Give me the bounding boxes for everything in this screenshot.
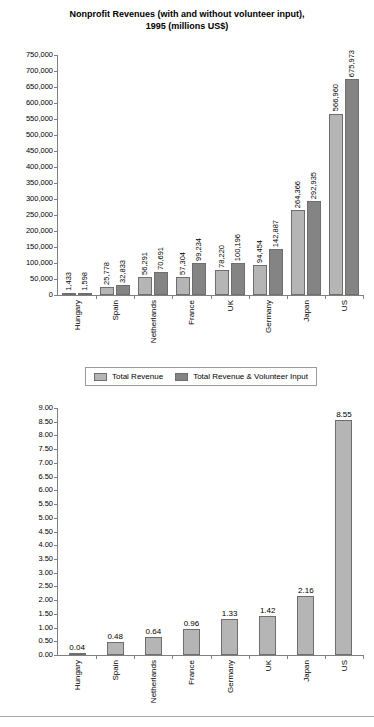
legend-item-label: Total Revenue — [112, 372, 163, 381]
bar: 1,433 — [62, 293, 76, 295]
bar-value-label: 99,234 — [195, 238, 203, 261]
bar: 1.42 — [259, 616, 276, 655]
bar: 57,304 — [176, 277, 190, 295]
x-axis-tick-mark — [211, 295, 212, 299]
legend-item[interactable]: Total Revenue — [94, 372, 163, 381]
bar-group: 0.04 — [58, 408, 96, 655]
bar-group: 1.33 — [211, 408, 249, 655]
bar: 99,234 — [192, 263, 206, 295]
x-axis-category-label: Netherlands — [149, 660, 158, 703]
x-axis-tick-mark — [211, 655, 212, 659]
bar-group: 8.55 — [325, 408, 363, 655]
x-axis-tick-mark — [172, 655, 173, 659]
bar-value-label: 0.04 — [69, 643, 85, 652]
legend-item-label: Total Revenue & Volunteer Input — [193, 372, 308, 381]
bar-value-label: 25,778 — [103, 262, 111, 285]
x-axis-tick-mark — [134, 655, 135, 659]
bar-value-label: 94,454 — [256, 240, 264, 263]
x-axis-category-label: UK — [263, 660, 272, 671]
x-axis-tick-mark — [363, 655, 364, 659]
x-axis-category-label: US — [339, 300, 348, 311]
x-axis-category-label: UK — [225, 300, 234, 311]
bottom-chart-plot-area: 9.008.508.007.507.006.506.005.505.004.50… — [57, 408, 363, 656]
bar-value-label: 70,691 — [157, 247, 165, 270]
bar-value-label: 264,366 — [294, 181, 302, 208]
bar-group: 1.42 — [249, 408, 287, 655]
x-axis-category-label: Germany — [225, 660, 234, 693]
x-axis-tick-mark — [287, 655, 288, 659]
bar-value-label: 32,833 — [119, 260, 127, 283]
bar-group: 1,4331,598 — [58, 55, 96, 295]
x-axis-tick-mark — [249, 655, 250, 659]
bar-value-label: 1.33 — [222, 609, 238, 618]
bar: 32,833 — [116, 285, 130, 296]
bar: 292,935 — [307, 201, 321, 295]
top-chart-plot-area: 750,000700,000650,000600,000550,000500,0… — [57, 55, 363, 296]
bar: 0.96 — [183, 629, 200, 655]
bar: 675,973 — [345, 79, 359, 295]
bar-value-label: 1,433 — [65, 272, 73, 291]
page-title: Nonprofit Revenues (with and without vol… — [0, 8, 374, 32]
bar-group: 57,30499,234 — [172, 55, 210, 295]
chart-title-line-2: 1995 (millions US$) — [0, 20, 374, 32]
bar-value-label: 57,304 — [179, 252, 187, 275]
bar-group: 566,960675,973 — [325, 55, 363, 295]
bar-group: 2.16 — [287, 408, 325, 655]
bar-value-label: 2.16 — [298, 586, 314, 595]
bar: 1,598 — [78, 293, 92, 295]
bar-value-label: 292,935 — [310, 172, 318, 199]
x-axis-category-label: Netherlands — [149, 300, 158, 343]
x-axis-category-label: Hungary — [73, 300, 82, 330]
y-axis-tick-mark — [54, 655, 58, 656]
bar: 142,887 — [269, 249, 283, 295]
bar-value-label: 142,887 — [272, 220, 280, 247]
bar: 566,960 — [329, 114, 343, 295]
x-axis-tick-mark — [96, 295, 97, 299]
bar-group: 264,366292,935 — [287, 55, 325, 295]
x-axis-tick-mark — [134, 295, 135, 299]
bar-value-label: 56,291 — [141, 252, 149, 275]
x-axis-tick-mark — [325, 295, 326, 299]
bar: 25,778 — [100, 287, 114, 295]
bar: 56,291 — [138, 277, 152, 295]
legend-item[interactable]: Total Revenue & Volunteer Input — [175, 372, 308, 381]
bar: 94,454 — [253, 265, 267, 295]
x-axis-category-label: Germany — [263, 300, 272, 333]
bar: 1.33 — [221, 619, 238, 656]
bar-group: 56,29170,691 — [134, 55, 172, 295]
bar-group: 0.48 — [96, 408, 134, 655]
bar-value-label: 0.48 — [107, 632, 123, 641]
x-axis-tick-mark — [325, 655, 326, 659]
bar-value-label: 100,196 — [234, 234, 242, 261]
legend-swatch-icon — [94, 373, 107, 381]
bar: 0.64 — [145, 637, 162, 655]
bar: 0.04 — [69, 653, 86, 655]
x-axis-category-label: Spain — [111, 660, 120, 680]
x-axis-tick-mark — [363, 295, 364, 299]
bar-value-label: 0.64 — [146, 627, 162, 636]
x-axis-tick-mark — [172, 295, 173, 299]
bar-value-label: 675,973 — [348, 50, 356, 77]
bar-group: 0.96 — [172, 408, 210, 655]
bar: 264,366 — [291, 210, 305, 295]
page-bottom-divider — [0, 716, 374, 717]
chart-title-line-1: Nonprofit Revenues (with and without vol… — [70, 9, 305, 19]
legend-swatch-icon — [175, 373, 188, 381]
x-axis-category-label: Spain — [111, 300, 120, 320]
x-axis-category-label: Japan — [301, 300, 310, 322]
x-axis-category-label: Hungary — [73, 660, 82, 690]
bottom-bar-chart: 9.008.508.007.507.006.506.005.505.004.50… — [0, 398, 374, 718]
x-axis-tick-mark — [249, 295, 250, 299]
chart-legend: Total RevenueTotal Revenue & Volunteer I… — [85, 367, 317, 386]
bar-value-label: 0.96 — [184, 619, 200, 628]
bar-group: 0.64 — [134, 408, 172, 655]
bar-group: 78,220100,196 — [211, 55, 249, 295]
bar: 0.48 — [107, 642, 124, 655]
x-axis-category-label: France — [187, 300, 196, 325]
x-axis-tick-mark — [287, 295, 288, 299]
bar-group: 94,454142,887 — [249, 55, 287, 295]
bar-value-label: 78,220 — [218, 245, 226, 268]
x-axis-category-label: France — [187, 660, 196, 685]
bar-value-label: 566,960 — [332, 84, 340, 111]
bar: 8.55 — [335, 420, 352, 655]
